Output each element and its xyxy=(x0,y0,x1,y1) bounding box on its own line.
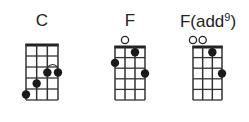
open-string-marker xyxy=(199,36,206,43)
finger-dot xyxy=(218,69,226,77)
chord-name-text: F(add xyxy=(180,12,224,31)
fretboard-grid xyxy=(25,44,59,101)
chord-name: F(add9) xyxy=(180,11,236,32)
finger-dot xyxy=(32,79,40,87)
open-string-marker xyxy=(121,36,128,43)
finger-dot xyxy=(131,48,139,56)
finger-dot xyxy=(141,69,149,77)
finger-dot xyxy=(54,68,62,76)
finger-dot xyxy=(111,59,119,67)
chord-name-text: C xyxy=(36,11,48,30)
chord-name: F xyxy=(125,11,135,31)
finger-dot xyxy=(208,48,216,56)
finger-dot xyxy=(22,90,30,98)
finger-dot xyxy=(43,68,51,76)
chord-suffix: ) xyxy=(230,12,236,31)
chord-name-text: F xyxy=(125,11,135,30)
chord-name: C xyxy=(36,11,48,31)
open-string-marker xyxy=(189,36,196,43)
